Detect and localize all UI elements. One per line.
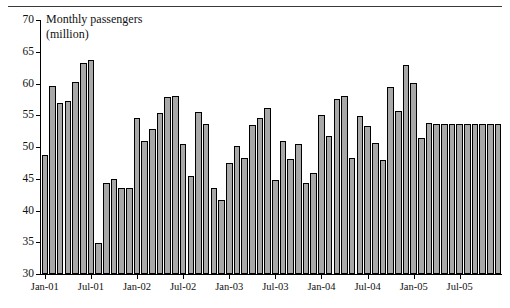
bar bbox=[172, 96, 179, 274]
bar bbox=[226, 163, 233, 274]
bar bbox=[134, 118, 141, 274]
bar bbox=[249, 125, 256, 274]
y-tick-mark bbox=[36, 274, 41, 275]
x-tick-label: Jan-01 bbox=[31, 282, 59, 293]
y-tick-mark bbox=[36, 52, 41, 53]
bar bbox=[280, 141, 287, 274]
x-tick-label: Jan-05 bbox=[400, 282, 428, 293]
y-tick-label: 70 bbox=[23, 14, 35, 26]
y-tick-mark bbox=[36, 115, 41, 116]
bar bbox=[403, 65, 410, 274]
bar bbox=[234, 146, 241, 274]
bar bbox=[157, 113, 164, 274]
bar bbox=[441, 124, 448, 274]
bar bbox=[303, 183, 310, 274]
y-tick-label: 45 bbox=[23, 173, 35, 185]
bar bbox=[57, 103, 64, 274]
y-tick-label: 65 bbox=[23, 46, 35, 58]
bar bbox=[364, 126, 371, 274]
y-tick-mark bbox=[36, 211, 41, 212]
bar bbox=[334, 99, 341, 274]
x-tick-label: Jul-01 bbox=[78, 282, 104, 293]
bar bbox=[126, 188, 133, 274]
bar bbox=[472, 124, 479, 274]
x-tick-mark bbox=[368, 274, 369, 279]
bar bbox=[149, 129, 156, 274]
x-tick-label: Jan-04 bbox=[307, 282, 335, 293]
bar bbox=[272, 180, 279, 274]
bar bbox=[426, 123, 433, 274]
bar bbox=[326, 136, 333, 274]
y-tick-label: 50 bbox=[23, 141, 35, 153]
bar bbox=[495, 124, 502, 274]
x-tick-mark bbox=[275, 274, 276, 279]
y-tick-label: 60 bbox=[23, 78, 35, 90]
bar bbox=[372, 143, 379, 274]
bar bbox=[357, 116, 364, 274]
bar bbox=[118, 188, 125, 274]
bar bbox=[111, 179, 118, 274]
y-tick-label: 30 bbox=[23, 268, 35, 280]
x-tick-label: Jan-02 bbox=[123, 282, 151, 293]
bar bbox=[449, 124, 456, 274]
bar bbox=[257, 118, 264, 274]
figure-container: Monthly passengers (million) 30354045505… bbox=[0, 0, 510, 308]
bar bbox=[218, 200, 225, 274]
bar bbox=[410, 83, 417, 274]
bar bbox=[49, 86, 56, 274]
bar bbox=[456, 124, 463, 274]
bar bbox=[433, 124, 440, 274]
bar bbox=[318, 115, 325, 274]
bar bbox=[88, 60, 95, 274]
x-tick-label: Jan-03 bbox=[215, 282, 243, 293]
x-axis-line bbox=[40, 274, 502, 275]
bar bbox=[211, 188, 218, 274]
bar bbox=[180, 144, 187, 274]
bar-series bbox=[41, 20, 502, 274]
bar bbox=[203, 124, 210, 274]
bar bbox=[287, 159, 294, 274]
bar bbox=[241, 158, 248, 274]
x-tick-mark bbox=[460, 274, 461, 279]
bar bbox=[65, 101, 72, 274]
bar bbox=[188, 176, 195, 274]
bar bbox=[72, 82, 79, 274]
bar bbox=[380, 160, 387, 274]
bar bbox=[418, 138, 425, 274]
bar bbox=[141, 141, 148, 274]
y-tick-label: 40 bbox=[23, 205, 35, 217]
bar bbox=[42, 155, 49, 274]
bar bbox=[487, 124, 494, 274]
y-tick-mark bbox=[36, 179, 41, 180]
bar bbox=[310, 173, 317, 274]
bar bbox=[195, 112, 202, 274]
x-tick-label: Jul-04 bbox=[354, 282, 380, 293]
plot-area: 303540455055606570 Jan-01Jul-01Jan-02Jul… bbox=[40, 20, 502, 274]
y-tick-mark bbox=[36, 20, 41, 21]
y-tick-label: 35 bbox=[23, 237, 35, 249]
bar bbox=[464, 124, 471, 274]
y-tick-mark bbox=[36, 84, 41, 85]
top-divider-rule bbox=[8, 6, 502, 7]
bar bbox=[80, 63, 87, 274]
bar bbox=[349, 158, 356, 274]
bar bbox=[387, 87, 394, 274]
x-tick-label: Jul-02 bbox=[170, 282, 196, 293]
y-tick-mark bbox=[36, 147, 41, 148]
bar bbox=[95, 243, 102, 274]
y-tick-mark bbox=[36, 242, 41, 243]
x-tick-label: Jul-03 bbox=[262, 282, 288, 293]
bar bbox=[395, 111, 402, 274]
x-tick-mark bbox=[414, 274, 415, 279]
x-tick-label: Jul-05 bbox=[447, 282, 473, 293]
bar bbox=[341, 96, 348, 274]
x-tick-mark bbox=[183, 274, 184, 279]
bar bbox=[479, 124, 486, 274]
x-tick-mark bbox=[45, 274, 46, 279]
bar bbox=[103, 183, 110, 274]
x-tick-mark bbox=[137, 274, 138, 279]
bar bbox=[164, 97, 171, 274]
bar bbox=[295, 144, 302, 274]
x-tick-mark bbox=[229, 274, 230, 279]
x-tick-mark bbox=[321, 274, 322, 279]
